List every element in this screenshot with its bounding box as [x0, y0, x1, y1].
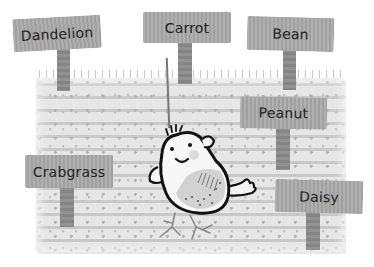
sign-board: Crabgrass	[25, 155, 113, 188]
roots-icon	[160, 213, 212, 239]
bird-character	[140, 115, 270, 245]
sign-board: Daisy	[275, 179, 364, 214]
sign-post	[57, 45, 70, 91]
sign-post	[276, 124, 290, 170]
sign-post	[283, 46, 296, 90]
sign-post	[60, 184, 74, 227]
eye-icon	[188, 143, 192, 147]
sign-board: Bean	[247, 16, 335, 52]
eye-icon	[170, 147, 174, 151]
sign-board: Dandelion	[12, 15, 102, 53]
sign-post	[306, 208, 320, 250]
sign-post	[178, 38, 192, 84]
sign-board: Carrot	[143, 12, 231, 43]
garden-scene: Dandelion Carrot Bean Peanut Crabgrass D…	[0, 0, 374, 267]
